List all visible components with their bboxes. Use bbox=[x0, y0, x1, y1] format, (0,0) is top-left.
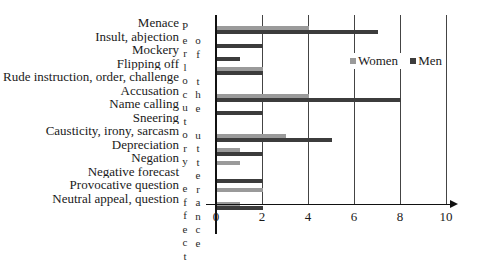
bar-men bbox=[217, 98, 401, 102]
y-axis-title-char: y bbox=[180, 155, 190, 169]
y-axis-title-char: e bbox=[180, 34, 190, 48]
category-label: Negative forecast bbox=[88, 165, 179, 178]
category-label: Depreciation bbox=[112, 138, 179, 151]
x-tick-label: 4 bbox=[298, 209, 318, 225]
y-axis-title-char: h bbox=[193, 88, 203, 102]
bar-men bbox=[217, 30, 378, 34]
bar-women bbox=[217, 161, 240, 165]
category-label: Rude instruction, order, challenge bbox=[3, 70, 179, 83]
category-label: Sneering bbox=[133, 111, 179, 124]
y-axis-title-char: l bbox=[180, 61, 190, 75]
y-axis-title-char: e bbox=[193, 237, 203, 251]
gridline bbox=[400, 15, 401, 205]
y-axis-title-char: f bbox=[193, 48, 203, 62]
y-axis-title-char: e bbox=[180, 223, 190, 237]
y-axis-title-char: e bbox=[180, 182, 190, 196]
category-label: Flipping off bbox=[117, 57, 179, 70]
women-swatch-icon bbox=[350, 58, 356, 64]
x-tick-label: 0 bbox=[206, 209, 226, 225]
x-tick-label: 10 bbox=[436, 209, 456, 225]
bar-men bbox=[217, 44, 263, 48]
y-axis-title-char: n bbox=[193, 210, 203, 224]
bar-men bbox=[217, 179, 263, 183]
bar-men bbox=[217, 57, 240, 61]
y-axis-title-char: u bbox=[193, 129, 203, 143]
y-axis-title-col1: Perlocutory effect bbox=[180, 20, 190, 263]
y-axis-title-char: r bbox=[193, 183, 203, 197]
x-tick-label: 8 bbox=[390, 209, 410, 225]
y-axis-title-char: t bbox=[193, 75, 203, 89]
category-label: Provocative question bbox=[70, 178, 179, 191]
y-axis-title-char: c bbox=[193, 223, 203, 237]
gridline bbox=[446, 15, 447, 205]
y-axis-title-char: c bbox=[180, 88, 190, 102]
bar-men bbox=[217, 111, 263, 115]
y-axis-title-char: e bbox=[193, 102, 203, 116]
y-axis-title-char bbox=[193, 61, 203, 75]
x-axis-line bbox=[206, 204, 452, 205]
x-tick-label: 6 bbox=[344, 209, 364, 225]
y-axis-title-char: a bbox=[193, 196, 203, 210]
y-axis-title-char: r bbox=[180, 47, 190, 61]
y-axis-title-char: f bbox=[180, 196, 190, 210]
y-axis-title-char: u bbox=[180, 101, 190, 115]
y-axis-title-char: t bbox=[193, 156, 203, 170]
category-label: Negation bbox=[131, 151, 179, 164]
x-tick-label: 2 bbox=[252, 209, 272, 225]
men-swatch-icon bbox=[410, 58, 416, 64]
category-label: Menace bbox=[138, 16, 179, 29]
y-axis-title-char: r bbox=[180, 142, 190, 156]
legend-item-men: Men bbox=[410, 53, 442, 69]
y-axis-title-char: c bbox=[180, 236, 190, 250]
category-label: Neutral appeal, question bbox=[52, 192, 179, 205]
bar-men bbox=[217, 138, 332, 142]
y-axis-title-char: o bbox=[180, 74, 190, 88]
category-label: Accusation bbox=[121, 84, 179, 97]
legend-item-women: Women bbox=[350, 53, 398, 69]
y-axis-title-char: P bbox=[180, 20, 190, 34]
y-axis-title-char: e bbox=[193, 169, 203, 183]
y-axis-title-char: f bbox=[180, 209, 190, 223]
y-axis-title-char: t bbox=[193, 142, 203, 156]
y-axis-title-char: t bbox=[180, 250, 190, 263]
category-label: Causticity, irony, sarcasm bbox=[46, 124, 179, 137]
y-axis-title-char: t bbox=[180, 115, 190, 129]
legend-label-men: Men bbox=[418, 53, 442, 69]
y-axis-line bbox=[215, 15, 217, 234]
category-label: Name calling bbox=[109, 97, 179, 110]
y-axis-title-char bbox=[193, 115, 203, 129]
y-axis-title-char bbox=[180, 169, 190, 183]
y-axis-title-char: o bbox=[193, 34, 203, 48]
legend: Women Men bbox=[348, 53, 444, 69]
category-label: Mockery bbox=[132, 43, 179, 56]
legend-label-women: Women bbox=[358, 53, 398, 69]
bar-women bbox=[217, 188, 263, 192]
category-label: Insult, abjection bbox=[95, 30, 179, 43]
y-axis-title-char: o bbox=[180, 128, 190, 142]
bar-men bbox=[217, 71, 263, 75]
gridline bbox=[354, 15, 355, 205]
y-axis-title-col2: of the utterance bbox=[193, 34, 203, 250]
bar-men bbox=[217, 152, 263, 156]
x-axis-arrow-icon bbox=[450, 200, 458, 208]
gridline bbox=[308, 15, 309, 205]
